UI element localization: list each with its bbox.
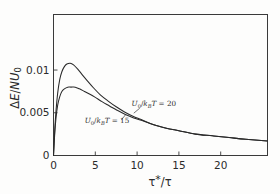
x-tick-label: 5	[92, 159, 99, 171]
y-tick-label: 0	[43, 149, 50, 161]
chart-figure: 05101520 00.0050.01 U0/kBT = 20U0/kBT = …	[0, 0, 280, 194]
y-axis-label: ΔE/NU0	[8, 67, 23, 108]
x-tick-label: 10	[130, 159, 143, 171]
x-axis-label: τ*/τ	[148, 173, 171, 189]
x-tick-label: 20	[214, 159, 227, 171]
y-tick-label: 0.01	[26, 64, 49, 76]
x-tick-label: 0	[50, 159, 57, 171]
y-tick-label: 0.005	[19, 106, 49, 118]
x-tick-label: 15	[172, 159, 185, 171]
chart-canvas: 05101520 00.0050.01 U0/kBT = 20U0/kBT = …	[0, 0, 280, 194]
